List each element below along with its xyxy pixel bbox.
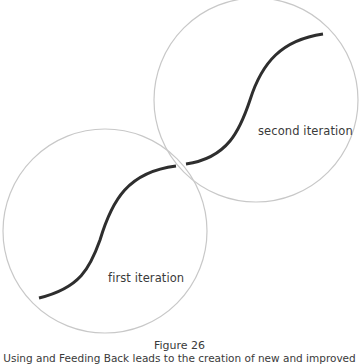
second-iteration-circle (154, 0, 358, 202)
second-iteration-label: second iteration (258, 124, 353, 138)
figure-caption-text: Using and Feeding Back leads to the crea… (0, 352, 359, 364)
first-iteration-circle (3, 129, 207, 333)
second-iteration-s-curve (186, 34, 323, 164)
first-iteration-label: first iteration (108, 271, 184, 285)
figure-caption-title: Figure 26 (0, 339, 359, 352)
